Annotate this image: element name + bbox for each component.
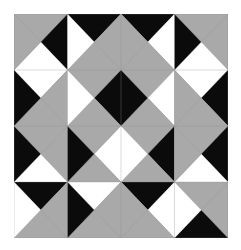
tiling-pattern-image (0, 0, 241, 250)
figure-root (0, 0, 241, 250)
